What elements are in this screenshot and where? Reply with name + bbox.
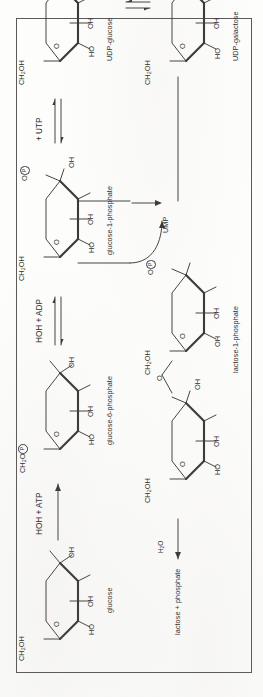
udpgal-to-condensation-connector	[78, 197, 132, 203]
g1p-o-phosphate-label: OP	[20, 166, 30, 181]
g6p-ho-bottom-label: HO	[88, 434, 95, 445]
g1p-oh-right-label: OH	[68, 157, 75, 168]
glucose-ch2oh-label: CH2OH	[18, 636, 26, 661]
udp-glucose-name-label: UDP-glucose	[106, 18, 113, 61]
scanned-page: CH2OH O OH OH HO glucose HOH + ATP CH2OP…	[0, 0, 263, 697]
g1p-ch2oh-label: CH2OH	[18, 256, 26, 281]
udpglc-ch2oh-label: CH2OH	[18, 60, 26, 85]
g6p-ch2o-phosphate-label: CH2OP	[18, 444, 28, 473]
phosphate-circle-icon: P	[20, 166, 30, 176]
lactose1p-gal-oh-top-label: OH	[214, 336, 221, 347]
g1p-oh-mid-label: OH	[87, 214, 94, 225]
g1p-ring-o-label: O	[53, 239, 60, 245]
lactose1p-gal-ch2oh-label: CH2OH	[144, 350, 152, 375]
glucose-name-label: glucose	[106, 588, 113, 613]
lactose1p-gal-oh-mid-label: OH	[213, 308, 220, 319]
g6p-oh-mid-label: OH	[87, 406, 94, 417]
diagram-canvas: CH2OH O OH OH HO glucose HOH + ATP CH2OP…	[16, 18, 252, 673]
glucose-oh-mid-label: OH	[87, 596, 94, 607]
lactose1p-glc-oh-mid-label: OH	[213, 436, 220, 447]
udpgal-ho-label: HO	[214, 48, 221, 59]
glucose-oh-right-label: OH	[68, 547, 75, 558]
udpglc-oh-mid-label: OH	[87, 18, 94, 29]
glucose-6-phosphate-name-label: glucose-6-phosphate	[106, 376, 113, 445]
utp-label: + UTP	[36, 118, 44, 141]
glucose-ho-bottom-label: HO	[88, 624, 95, 635]
hoh-adp-label: HOH + ADP	[36, 299, 44, 343]
glucose-ring-o-label: O	[53, 621, 60, 627]
udpglc-ho-bottom-label: HO	[88, 46, 95, 57]
g1p-ho-bottom-label: HO	[88, 242, 95, 253]
udpglc-ring-o-label: O	[53, 43, 60, 49]
hoh-atp-label: HOH + ATP	[36, 493, 44, 535]
lactose1p-hydrolysis-arrow	[172, 507, 186, 563]
udpgal-ring-o-label: O	[179, 43, 186, 49]
lactose1p-glc-ch2oh-label: CH2OH	[144, 478, 152, 503]
g6p-oh-right-label: OH	[68, 357, 75, 368]
glycosidic-o-label: O	[156, 375, 163, 381]
glucose-to-g6p-arrow	[52, 470, 66, 540]
udpgal-branch-connector	[176, 73, 182, 203]
water-label: H2O	[158, 541, 165, 553]
g1p-to-condensation-connector	[78, 259, 132, 265]
lactose1p-glc-ring-o-label: O	[179, 461, 186, 467]
lactose-phosphate-label: lactose + phosphate	[174, 569, 181, 635]
udpgal-oh-mid-label: OH	[213, 18, 220, 29]
g6p-ring-o-label: O	[53, 431, 60, 437]
udpgal-ch2oh-label: CH2OH	[144, 60, 152, 85]
lactose1p-glc-ho-label: HO	[214, 464, 221, 475]
g1p-to-udpglucose-equilibrium-arrow	[50, 75, 68, 145]
udpglucose-udpgalactose-equilibrium-arrow	[124, 0, 154, 13]
g6p-to-g1p-equilibrium-arrow	[50, 277, 68, 347]
udp-galactose-name-label: UDP-galactose	[232, 11, 239, 61]
lactose-1-phosphate-name-label: lactose-1-phosphate	[232, 306, 239, 373]
phosphate-circle-icon: P	[18, 444, 28, 454]
lactose1p-gal-ring-o-label: O	[179, 333, 186, 339]
